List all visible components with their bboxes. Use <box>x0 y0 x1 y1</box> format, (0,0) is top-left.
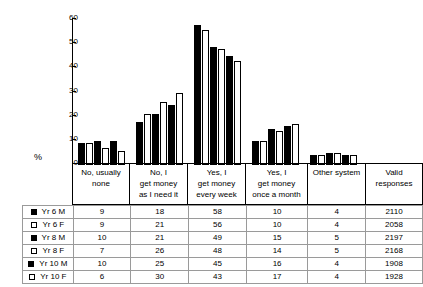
legend-swatch-filled-icon <box>28 261 34 267</box>
legend-label: Yr 10 F <box>40 272 66 282</box>
category-header-cell: Yes, Iget moneyonce a month <box>246 164 308 204</box>
category-header-cell: Other system <box>308 164 366 204</box>
table-cell-value: 21 <box>131 232 189 245</box>
legend-label: Yr 6 F <box>42 220 64 230</box>
category-header-line: get money <box>198 178 235 189</box>
table-row: Yr 10 M1025451641908 <box>23 258 423 271</box>
table-cell-value: 43 <box>189 271 247 284</box>
table-cell-value: 26 <box>131 245 189 258</box>
category-header-line: get money <box>140 178 177 189</box>
legend-cell: Yr 8 F <box>23 245 74 258</box>
category-header-line: as I need it <box>139 189 178 200</box>
table-cell-value: 7 <box>73 245 131 258</box>
table-cell-value: 10 <box>246 219 308 232</box>
plot-area: 0102030405060 % <box>0 0 423 165</box>
category-header-line: none <box>92 178 110 189</box>
category-header-line: Valid <box>385 167 402 178</box>
legend-swatch-hollow-icon <box>31 248 37 254</box>
category-header-band: No, usuallynoneNo, Iget moneyas I need i… <box>72 163 423 205</box>
category-header-line: No, usually <box>81 167 121 178</box>
bar <box>218 49 225 165</box>
table-cell-value: 16 <box>246 258 308 271</box>
bars-layer <box>0 0 423 165</box>
bar-group <box>194 20 241 165</box>
legend-label: Yr 6 M <box>42 207 66 217</box>
table-cell-value: 21 <box>131 219 189 232</box>
bar <box>268 129 275 165</box>
table-cell-valid-responses: 2058 <box>365 219 422 232</box>
legend-swatch-hollow-icon <box>31 222 37 228</box>
table-cell-value: 17 <box>246 271 308 284</box>
table-cell-value: 25 <box>131 258 189 271</box>
bar <box>234 61 241 165</box>
table-cell-valid-responses: 1908 <box>365 258 422 271</box>
bar <box>110 141 117 165</box>
bar <box>202 30 209 165</box>
bar <box>94 141 101 165</box>
legend-swatch-filled-icon <box>31 235 37 241</box>
category-header-line: No, I <box>150 167 167 178</box>
table-cell-value: 58 <box>189 206 247 219</box>
table-cell-value: 10 <box>73 258 131 271</box>
bar <box>168 105 175 165</box>
legend-swatch-hollow-icon <box>29 274 35 280</box>
bar-group <box>252 20 299 165</box>
bar <box>226 56 233 165</box>
category-header-line: Yes, I <box>207 167 227 178</box>
table-cell-value: 6 <box>73 271 131 284</box>
bar-group <box>78 20 125 165</box>
table-cell-value: 9 <box>73 206 131 219</box>
table-cell-valid-responses: 2197 <box>365 232 422 245</box>
grouped-bar-chart-with-data-table: 0102030405060 % No, usuallynoneNo, Iget … <box>0 0 423 287</box>
legend-label: Yr 8 M <box>42 233 66 243</box>
table-cell-valid-responses: 2168 <box>365 245 422 258</box>
table-cell-value: 9 <box>73 219 131 232</box>
legend-cell: Yr 10 F <box>23 271 74 284</box>
table-cell-value: 18 <box>131 206 189 219</box>
table-cell-value: 5 <box>308 232 366 245</box>
bar <box>152 114 159 165</box>
bar <box>252 141 259 165</box>
bar <box>176 93 183 166</box>
table-cell-value: 15 <box>246 232 308 245</box>
table-cell-value: 10 <box>246 206 308 219</box>
category-header-line: responses <box>376 178 413 189</box>
bar <box>194 25 201 165</box>
bar <box>136 122 143 166</box>
category-header-line: Yes, I <box>267 167 287 178</box>
table-cell-value: 49 <box>189 232 247 245</box>
category-header-line: Other system <box>313 167 361 178</box>
table-cell-value: 30 <box>131 271 189 284</box>
table-cell-value: 56 <box>189 219 247 232</box>
table-cell-value: 4 <box>308 206 366 219</box>
table-row: Yr 6 M918581042110 <box>23 206 423 219</box>
table-cell-valid-responses: 2110 <box>365 206 422 219</box>
bar <box>260 141 267 165</box>
legend-cell: Yr 10 M <box>23 258 74 271</box>
legend-swatch-filled-icon <box>31 209 37 215</box>
table-cell-value: 14 <box>246 245 308 258</box>
table-cell-value: 4 <box>308 258 366 271</box>
bar <box>276 131 283 165</box>
table-cell-value: 5 <box>308 245 366 258</box>
category-header-line: get money <box>258 178 295 189</box>
table-cell-valid-responses: 1928 <box>365 271 422 284</box>
category-header-cell: Yes, Iget moneyevery week <box>188 164 246 204</box>
bar-group <box>136 20 183 165</box>
data-table: Yr 6 M918581042110Yr 6 F921561042058Yr 8… <box>22 205 423 284</box>
table-cell-value: 48 <box>189 245 247 258</box>
bar-group <box>310 20 357 165</box>
bar <box>284 126 291 165</box>
bar <box>292 124 299 165</box>
table-row: Yr 8 F726481452168 <box>23 245 423 258</box>
bar <box>160 102 167 165</box>
table-cell-value: 45 <box>189 258 247 271</box>
legend-cell: Yr 8 M <box>23 232 74 245</box>
bar <box>210 47 217 165</box>
bar <box>86 143 93 165</box>
table-cell-value: 4 <box>308 219 366 232</box>
table-row: Yr 6 F921561042058 <box>23 219 423 232</box>
table-row: Yr 10 F630431741928 <box>23 271 423 284</box>
category-header-line: once a month <box>252 189 300 200</box>
table-row: Yr 8 M1021491552197 <box>23 232 423 245</box>
